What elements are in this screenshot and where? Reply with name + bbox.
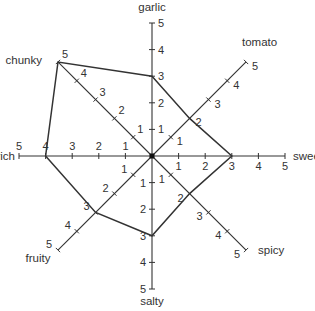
tick-label: 2	[140, 203, 146, 215]
tick-label: 3	[100, 86, 106, 98]
tick-label: 5	[46, 238, 52, 250]
tick-label: 3	[214, 98, 220, 110]
axes	[19, 23, 285, 289]
axis-label-sweet: sweet	[293, 150, 315, 162]
tick-label: 1	[158, 123, 164, 135]
center-point	[150, 154, 155, 159]
axis-label-chunky: chunky	[6, 54, 43, 66]
tick-label: 4	[158, 44, 164, 56]
axis-label-garlic: garlic	[138, 1, 166, 13]
tick-label: 5	[252, 60, 258, 72]
tick-label: 5	[62, 48, 68, 60]
tick-label: 4	[65, 219, 71, 231]
tick-label: 1	[122, 140, 128, 152]
tick-label: 3	[229, 160, 235, 172]
tick-label: 4	[215, 229, 221, 241]
tick-label: 5	[16, 140, 22, 152]
tick-label: 5	[158, 17, 164, 29]
axis-label-tomato: tomato	[242, 36, 277, 48]
tick-label: 1	[137, 123, 143, 135]
tick-label: 4	[140, 256, 146, 268]
axis-label-salty: salty	[140, 295, 164, 307]
tick-label: 2	[102, 182, 108, 194]
tick-label: 2	[96, 140, 102, 152]
axis-label-rich: rich	[0, 150, 15, 162]
tick-label: 2	[202, 160, 208, 172]
radar-chart: 1234512345123451234512345123451234512345…	[0, 0, 315, 311]
tick-label: 3	[158, 70, 164, 82]
tick-label: 2	[118, 104, 124, 116]
tick-label: 5	[282, 160, 288, 172]
tick-label: 5	[140, 283, 146, 295]
tick-label: 3	[196, 210, 202, 222]
axis-label-fruity: fruity	[25, 252, 50, 264]
tick-label: 1	[177, 135, 183, 147]
axis-fruity	[58, 156, 152, 250]
tick-label: 3	[69, 140, 75, 152]
tick-label: 1	[159, 173, 165, 185]
tick-label: 1	[140, 177, 146, 189]
axis-label-spicy: spicy	[258, 244, 284, 256]
tick-label: 4	[255, 160, 261, 172]
tick-label: 4	[81, 67, 87, 79]
tick-label: 4	[233, 79, 239, 91]
tick-label: 5	[234, 248, 240, 260]
tick-label: 1	[121, 163, 127, 175]
tick-label: 2	[158, 97, 164, 109]
tick-label: 1	[176, 160, 182, 172]
axis-tomato	[152, 62, 246, 156]
